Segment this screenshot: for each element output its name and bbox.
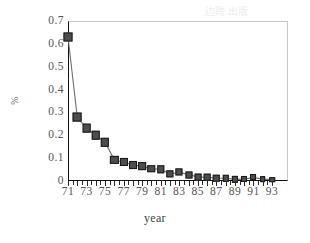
- x-axis-title: year: [0, 211, 310, 226]
- data-point-marker: [148, 165, 156, 173]
- x-tick-label: 87: [210, 186, 223, 198]
- chart-figure: 边跨 出版 0.7 0.6 0.5 0.4 0.3 0.2 0.1 0 % 71…: [0, 0, 310, 243]
- x-tick-label: 81: [154, 186, 167, 198]
- data-point-marker: [157, 165, 164, 172]
- x-tick-label: 93: [266, 186, 279, 198]
- data-point-marker: [120, 158, 128, 166]
- x-tick-label: 75: [99, 186, 112, 198]
- x-tick-label: 91: [247, 186, 260, 198]
- data-point-marker: [101, 138, 109, 146]
- x-axis-tick-labels: 717375777981838587899193: [56, 186, 302, 204]
- data-point-marker: [185, 171, 192, 178]
- data-point-marker: [166, 170, 173, 177]
- data-point-marker: [110, 156, 118, 164]
- x-tick-label: 85: [192, 186, 205, 198]
- x-tick-label: 73: [80, 186, 93, 198]
- x-tick-label: 83: [173, 186, 186, 198]
- data-point-marker: [204, 174, 211, 181]
- data-point-marker: [250, 174, 256, 180]
- x-tick-label: 77: [117, 186, 130, 198]
- data-point-marker: [194, 173, 201, 180]
- x-tick-label: 89: [229, 186, 242, 198]
- data-point-marker: [73, 113, 82, 122]
- data-point-marker: [92, 131, 101, 140]
- data-point-marker: [82, 124, 91, 133]
- series-line: [0, 0, 310, 243]
- x-tick-label: 79: [136, 186, 149, 198]
- x-tick-label: 71: [62, 186, 75, 198]
- data-point-marker: [176, 169, 183, 176]
- data-point-marker: [64, 33, 73, 42]
- data-point-marker: [129, 161, 137, 169]
- data-point-marker: [138, 162, 146, 170]
